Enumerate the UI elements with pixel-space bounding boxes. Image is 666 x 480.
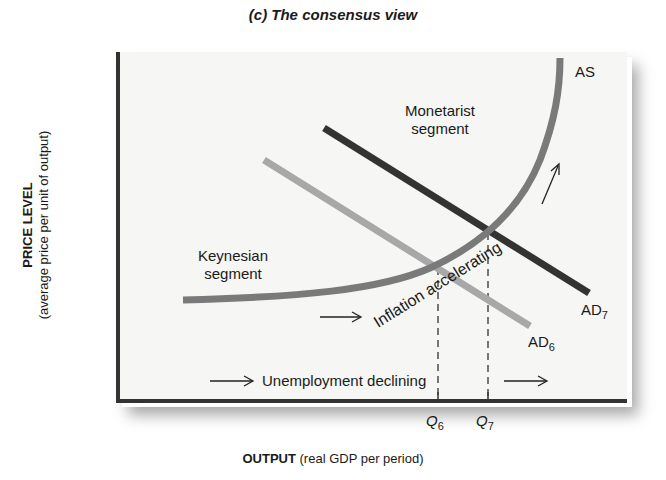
x-axis-label-detail: (real GDP per period) — [300, 451, 424, 466]
ad7-label: AD7 — [581, 301, 608, 320]
unemployment-right-arrow-icon — [504, 376, 547, 386]
unemployment-declining-label: Unemployment declining — [262, 372, 426, 390]
ad6-label: AD6 — [528, 333, 555, 352]
inflation-arrow-icon — [320, 312, 361, 322]
monetarist-up-arrow-icon — [542, 164, 559, 204]
unemployment-left-arrow-icon — [210, 376, 253, 386]
y-axis-label-bold: PRICE LEVEL — [20, 182, 35, 267]
y-axis-label: PRICE LEVEL (average price per unit of o… — [20, 115, 52, 335]
x-axis-label: OUTPUT (real GDP per period) — [0, 451, 666, 466]
as-label: AS — [575, 15, 595, 33]
q7-tick-label: Q7 — [476, 412, 494, 429]
q6-tick-label: Q6 — [426, 412, 444, 429]
keynesian-segment-label: Keynesian segment — [188, 247, 278, 283]
x-axis-label-bold: OUTPUT — [242, 451, 295, 466]
monetarist-segment-label: Monetarist segment — [390, 102, 490, 138]
plot-area: Inflation accelerating — [0, 0, 666, 480]
y-axis-label-detail: (average price per unit of output) — [36, 131, 51, 320]
